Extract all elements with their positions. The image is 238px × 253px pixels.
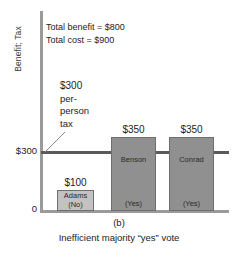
- bar-name-conrad: Conrad: [169, 155, 214, 164]
- y-tick-label-0: 0: [2, 203, 37, 214]
- panel-label: (b): [0, 217, 238, 228]
- bar-name-adams: Adams: [57, 191, 94, 200]
- y-tick-label-300: $300: [2, 145, 37, 156]
- bar-name-benson: Benson: [111, 155, 156, 164]
- tax-per-text: per-: [60, 93, 89, 106]
- total-cost-text: Total cost = $900: [46, 34, 125, 47]
- figure-panel-b: Benefit; Tax $300 0 Total benefit = $800…: [0, 0, 238, 253]
- bar-value-label-conrad: $350: [166, 124, 217, 135]
- tax-tax-text: tax: [60, 118, 89, 131]
- tax-amount-text: $300: [60, 80, 89, 93]
- bar-value-label-adams: $100: [52, 177, 99, 188]
- y-axis-title: Benefit; Tax: [13, 14, 23, 84]
- bar-value-label-benson: $350: [108, 124, 159, 135]
- tax-person-text: person: [60, 105, 89, 118]
- figure-caption: Inefficient majority “yes” vote: [0, 232, 238, 243]
- bar-vote-benson: (Yes): [111, 199, 156, 208]
- tax-leader-line: [44, 131, 66, 153]
- bar-vote-conrad: (Yes): [169, 199, 214, 208]
- bar-vote-adams: (No): [57, 200, 94, 209]
- y-axis-line: [40, 11, 43, 212]
- total-benefit-text: Total benefit = $800: [46, 21, 125, 34]
- summary-annotation: Total benefit = $800 Total cost = $900: [46, 21, 125, 46]
- per-person-tax-label: $300 per- person tax: [60, 80, 89, 130]
